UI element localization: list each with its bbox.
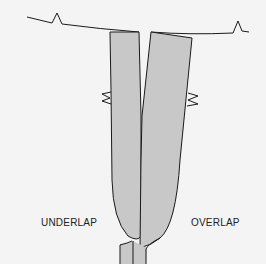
diagram-canvas: UNDERLAP OVERLAP [0,0,266,274]
underlap-label: UNDERLAP [41,217,97,228]
overlap-strip [140,32,192,248]
underlap-strip [110,32,141,239]
right-zigzag [187,93,198,106]
surface-line [27,13,249,34]
lap-diagram-svg [0,0,266,274]
overlap-label: OVERLAP [191,217,240,228]
left-zigzag [102,92,111,104]
